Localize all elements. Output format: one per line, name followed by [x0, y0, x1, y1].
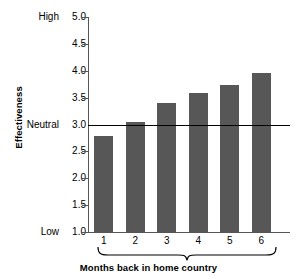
y-tick-label-2-0: 2.0 — [10, 172, 86, 184]
x-tick-label-6: 6 — [251, 234, 271, 248]
x-axis-line — [88, 232, 290, 233]
y-tick-label-1-5: 1.5 — [10, 199, 86, 211]
bar-4 — [189, 93, 208, 232]
y-tick-label-5-0: High5.0 — [10, 11, 86, 23]
y-tick-label-4-5: 4.5 — [10, 38, 86, 50]
x-axis-tick-labels: 123456 — [88, 234, 277, 248]
y-tick-anchor-word: High — [17, 11, 64, 23]
bar-2 — [126, 122, 145, 232]
y-tick-anchor-word: Neutral — [17, 119, 64, 131]
bar-3 — [157, 103, 176, 232]
x-axis-title: Months back in home country — [0, 262, 297, 273]
y-tick-label-4-0: 4.0 — [10, 65, 86, 77]
y-axis-tick-labels: High5.04.54.03.5Neutral3.02.52.01.5Low1.… — [10, 0, 86, 279]
y-tick-label-2-5: 2.5 — [10, 145, 86, 157]
bar-chart: Effectiveness High5.04.54.03.5Neutral3.0… — [0, 0, 297, 279]
y-tick-label-1-0: Low1.0 — [10, 226, 86, 238]
x-tick-label-3: 3 — [157, 234, 177, 248]
bar-5 — [220, 85, 239, 232]
x-tick-label-4: 4 — [188, 234, 208, 248]
y-tick-value: 3.0 — [64, 119, 86, 131]
bar-1 — [94, 136, 113, 232]
x-tick-label-5: 5 — [220, 234, 240, 248]
y-tick-label-3-0: Neutral3.0 — [10, 119, 86, 131]
bar-6 — [252, 73, 271, 232]
x-tick-label-1: 1 — [94, 234, 114, 248]
neutral-reference-line — [88, 125, 290, 126]
y-tick-anchor-word: Low — [17, 226, 64, 238]
y-tick-label-3-5: 3.5 — [10, 92, 86, 104]
x-tick-label-2: 2 — [125, 234, 145, 248]
category-brace-icon — [96, 247, 278, 261]
